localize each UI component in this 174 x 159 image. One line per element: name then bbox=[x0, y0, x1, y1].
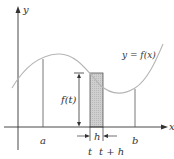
curve-label: y = f(x) bbox=[121, 50, 156, 60]
y-axis-label: y bbox=[22, 4, 29, 15]
width-label: h bbox=[94, 131, 100, 142]
y-axis-arrow-icon bbox=[16, 6, 21, 13]
point-a-label: a bbox=[40, 135, 46, 146]
area-function-diagram: y x y = f(x) a b f(t) h t t + h bbox=[0, 0, 174, 159]
arrow-up-icon bbox=[77, 74, 81, 79]
height-label: f(t) bbox=[60, 94, 77, 105]
point-t-label: t bbox=[88, 146, 93, 157]
arrow-down-icon bbox=[77, 122, 81, 127]
point-b-label: b bbox=[132, 135, 138, 146]
x-axis-arrow-icon bbox=[161, 125, 168, 130]
point-t-plus-h-label: t + h bbox=[99, 146, 124, 157]
x-axis-label: x bbox=[169, 121, 174, 132]
arrow-right-icon bbox=[85, 134, 90, 138]
arrow-left-icon bbox=[103, 134, 108, 138]
